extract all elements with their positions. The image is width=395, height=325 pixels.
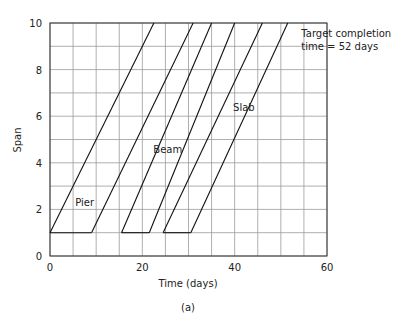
annotations: Target completiontime = 52 days: [300, 28, 391, 52]
target-completion-annotation: time = 52 days: [301, 41, 378, 52]
x-tick-label: 40: [228, 262, 241, 273]
series-label: Beam: [153, 144, 182, 155]
series-label: Pier: [75, 197, 95, 208]
figure-caption: (a): [181, 302, 195, 313]
x-tick-label: 20: [136, 262, 149, 273]
y-tick-label: 10: [29, 18, 42, 29]
series-line-pier: [50, 23, 154, 233]
series-line-slab: [191, 23, 288, 233]
series-label: Slab: [233, 102, 255, 113]
x-tick-label: 60: [321, 262, 334, 273]
y-axis-label: Span: [12, 127, 23, 152]
x-tick-labels: 0204060: [47, 262, 334, 273]
x-tick-label: 0: [47, 262, 53, 273]
y-tick-label: 2: [36, 204, 42, 215]
series-labels: PierBeamSlab: [75, 102, 255, 209]
grid: [50, 23, 327, 256]
y-tick-labels: 0246810: [29, 18, 42, 262]
series-line-beam: [149, 23, 234, 233]
series-line-beam: [122, 23, 212, 233]
y-tick-label: 0: [36, 251, 42, 262]
y-tick-label: 4: [36, 158, 42, 169]
target-completion-annotation: Target completion: [300, 28, 391, 39]
y-tick-label: 6: [36, 111, 42, 122]
y-tick-label: 8: [36, 65, 42, 76]
x-axis-label: Time (days): [157, 278, 217, 289]
line-of-balance-chart: 0204060 0246810 PierBeamSlab Target comp…: [0, 0, 395, 325]
